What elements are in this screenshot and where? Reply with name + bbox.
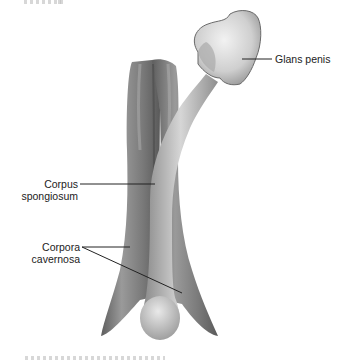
label-corpora-cavernosa-line1: Corpora	[0, 241, 80, 253]
label-corpus-spongiosum-line2: spongiosum	[0, 190, 78, 202]
anatomy-diagram: Glans penis Corpus spongiosum Corpora ca…	[0, 0, 350, 360]
label-corpus-spongiosum: Corpus spongiosum	[0, 178, 78, 202]
glans-shape	[194, 11, 260, 85]
label-corpora-cavernosa-line2: cavernosa	[0, 253, 80, 265]
label-corpus-spongiosum-line1: Corpus	[0, 178, 78, 190]
label-corpora-cavernosa: Corpora cavernosa	[0, 241, 80, 265]
label-glans-penis: Glans penis	[275, 53, 330, 65]
